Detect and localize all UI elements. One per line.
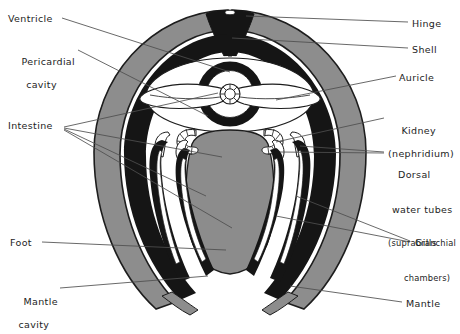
label-mantle-cavity: Mantle cavity <box>10 284 58 334</box>
label-ventricle: Ventricle <box>8 13 53 25</box>
label-mantle-cavity-line2: cavity <box>10 319 58 331</box>
label-auricle: Auricle <box>399 72 434 84</box>
label-intestine: Intestine <box>8 120 53 132</box>
label-dorsal-line4: chambers) <box>388 273 456 285</box>
label-dorsal-line1: Dorsal <box>388 169 456 181</box>
intestine-section-heart <box>220 84 240 104</box>
label-mantle-cavity-line1: Mantle <box>23 296 57 307</box>
label-dorsal-water-tubes: Dorsal water tubes (suprabranchial chamb… <box>388 146 456 307</box>
label-pericardial-cavity: Pericardial cavity <box>8 44 75 113</box>
label-kidney-line1: Kidney <box>401 125 436 136</box>
label-mantle: Mantle <box>406 298 440 310</box>
label-gills: Gills <box>415 237 437 249</box>
label-dorsal-line2: water tubes <box>388 204 456 216</box>
label-pericardial-line2: cavity <box>8 79 75 91</box>
label-pericardial-line1: Pericardial <box>21 56 75 67</box>
label-foot: Foot <box>10 237 32 249</box>
label-hinge: Hinge <box>412 18 441 30</box>
label-shell: Shell <box>412 44 437 56</box>
hinge-notch <box>225 10 235 14</box>
